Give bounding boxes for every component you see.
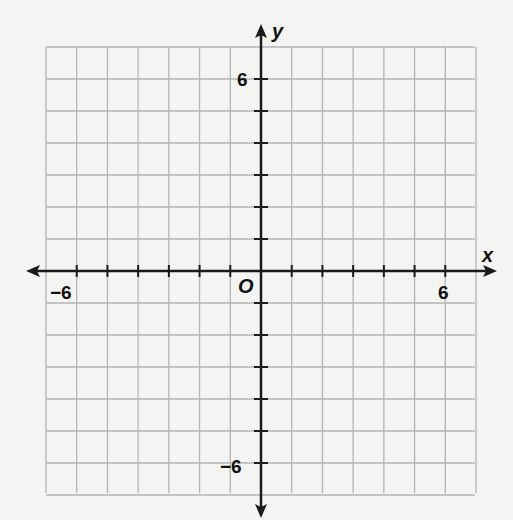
y-tick-label-neg6: −6	[220, 456, 242, 477]
y-tick-label-6: 6	[237, 69, 248, 90]
axis-labels: x y O −6 6 6 −6	[50, 20, 494, 477]
coordinate-plane: x y O −6 6 6 −6	[0, 0, 513, 520]
x-axis-label: x	[481, 244, 494, 266]
x-tick-label-6: 6	[438, 282, 449, 303]
axes	[26, 24, 497, 518]
x-tick-label-neg6: −6	[50, 282, 72, 303]
origin-label: O	[238, 275, 254, 297]
y-axis-label: y	[271, 20, 284, 42]
